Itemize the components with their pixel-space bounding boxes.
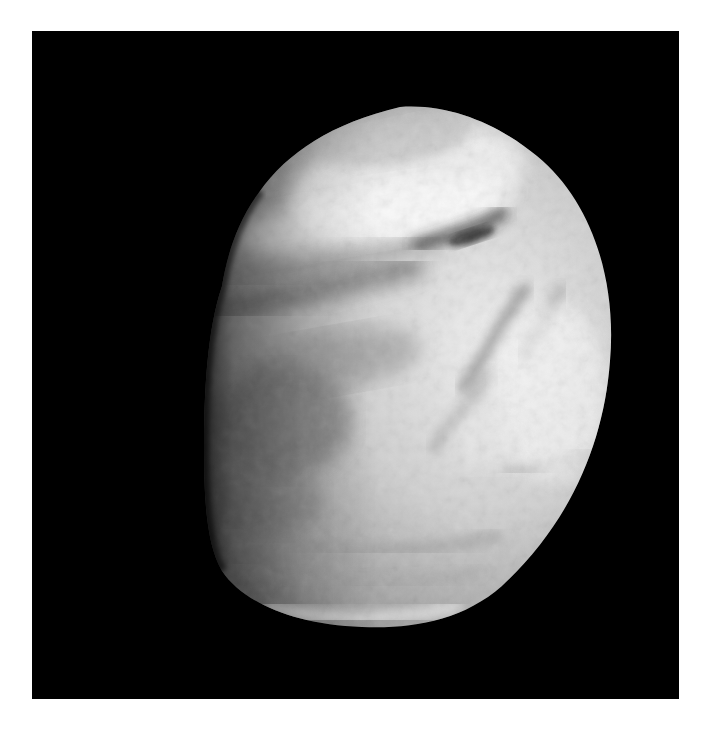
planet-disk [182, 91, 632, 651]
venus-planet-image [32, 31, 679, 699]
image-frame: Grayscale image of the planet Venus show… [32, 31, 679, 699]
